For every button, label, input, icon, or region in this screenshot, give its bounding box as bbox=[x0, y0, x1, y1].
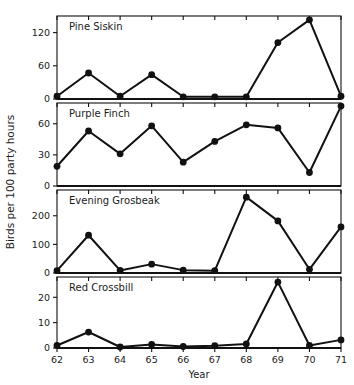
data-point bbox=[243, 93, 250, 100]
data-point bbox=[85, 128, 92, 135]
x-tick-label: 71 bbox=[335, 354, 347, 365]
y-tick-label: 0 bbox=[44, 342, 50, 353]
x-tick-label: 70 bbox=[303, 354, 315, 365]
data-point bbox=[117, 150, 124, 157]
data-point bbox=[85, 232, 92, 239]
data-point bbox=[148, 261, 155, 268]
bird-abundance-figure: Birds per 100 party hours060120Pine Sisk… bbox=[0, 0, 354, 385]
data-point bbox=[306, 169, 313, 176]
y-tick-label: 120 bbox=[32, 27, 50, 38]
data-point bbox=[274, 218, 281, 225]
data-point bbox=[180, 93, 187, 100]
data-point bbox=[54, 342, 61, 349]
panel-purple-finch: 03060Purple Finch bbox=[38, 103, 344, 192]
data-point bbox=[306, 16, 313, 23]
x-tick-label: 63 bbox=[83, 354, 95, 365]
panel-evening-grosbeak: 0100200Evening Grosbeak bbox=[32, 190, 345, 278]
panel-title: Purple Finch bbox=[69, 108, 130, 119]
series-line bbox=[57, 197, 341, 271]
data-point bbox=[306, 342, 313, 349]
x-axis: 62636465666768697071Year bbox=[51, 348, 347, 380]
x-tick-label: 64 bbox=[114, 354, 126, 365]
data-point bbox=[274, 125, 281, 132]
data-point bbox=[180, 267, 187, 274]
data-point bbox=[338, 224, 345, 231]
x-tick-label: 67 bbox=[209, 354, 221, 365]
y-tick-label: 200 bbox=[32, 210, 50, 221]
panel-pine-siskin: 060120Pine Siskin bbox=[32, 16, 345, 104]
x-axis-label: Year bbox=[187, 369, 210, 380]
data-point bbox=[148, 122, 155, 129]
y-tick-label: 60 bbox=[38, 118, 50, 129]
y-tick-label: 100 bbox=[32, 239, 50, 250]
y-tick-label: 60 bbox=[38, 60, 50, 71]
data-point bbox=[54, 93, 61, 100]
x-tick-label: 65 bbox=[146, 354, 158, 365]
data-point bbox=[148, 341, 155, 348]
x-tick-label: 69 bbox=[272, 354, 284, 365]
x-tick-label: 62 bbox=[51, 354, 63, 365]
panel-title: Evening Grosbeak bbox=[69, 195, 160, 206]
panel-title: Pine Siskin bbox=[69, 21, 123, 32]
data-point bbox=[211, 267, 218, 274]
y-tick-label: 0 bbox=[44, 180, 50, 191]
data-point bbox=[54, 267, 61, 274]
data-point bbox=[117, 93, 124, 100]
data-point bbox=[117, 267, 124, 274]
x-tick-label: 68 bbox=[240, 354, 252, 365]
data-point bbox=[180, 159, 187, 166]
data-point bbox=[338, 93, 345, 100]
data-point bbox=[338, 103, 345, 110]
y-tick-label: 10 bbox=[38, 317, 50, 328]
data-point bbox=[211, 138, 218, 145]
y-tick-label: 30 bbox=[38, 149, 50, 160]
panel-red-crossbill: 01020Red Crossbill bbox=[38, 277, 344, 353]
panel-title: Red Crossbill bbox=[69, 282, 133, 293]
data-point bbox=[274, 39, 281, 46]
data-point bbox=[148, 71, 155, 78]
x-tick-label: 66 bbox=[177, 354, 189, 365]
data-point bbox=[338, 336, 345, 343]
y-tick-label: 20 bbox=[38, 292, 50, 303]
data-point bbox=[243, 194, 250, 201]
data-point bbox=[243, 341, 250, 348]
data-point bbox=[85, 70, 92, 77]
y-tick-label: 0 bbox=[44, 267, 50, 278]
data-point bbox=[243, 121, 250, 128]
data-point bbox=[306, 266, 313, 273]
data-point bbox=[211, 93, 218, 100]
data-point bbox=[85, 329, 92, 336]
y-tick-label: 0 bbox=[44, 93, 50, 104]
chart-canvas: Birds per 100 party hours060120Pine Sisk… bbox=[0, 0, 354, 385]
data-point bbox=[54, 163, 61, 170]
data-point bbox=[274, 279, 281, 286]
y-axis-label: Birds per 100 party hours bbox=[4, 115, 16, 250]
